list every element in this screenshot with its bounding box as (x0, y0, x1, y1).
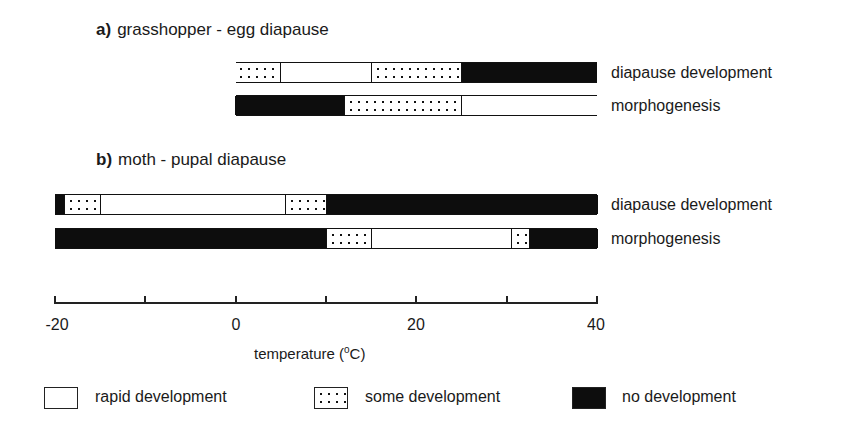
x-axis-tick (325, 296, 327, 304)
tick-label-20: 20 (407, 316, 425, 334)
bar-segment-black (55, 229, 326, 248)
bar-segment-black (235, 96, 343, 115)
bar-moth-morphogenesis (55, 228, 597, 249)
panel-a-title-text: grasshopper - egg diapause (117, 20, 329, 39)
bar-segment-dots (285, 195, 327, 214)
panel-b-title-text: moth - pupal diapause (118, 150, 286, 169)
x-axis-title-unit: C) (350, 345, 366, 362)
panel-b-letter: b) (96, 150, 112, 169)
x-axis-title: temperature (oC) (254, 344, 365, 362)
bar-segment-white (461, 96, 598, 115)
bar-segment-black (326, 195, 598, 214)
x-axis-tick (506, 296, 508, 304)
bar-segment-black (55, 195, 64, 214)
panel-b-title: b)moth - pupal diapause (96, 150, 286, 170)
bar-segment-white (371, 229, 512, 248)
legend-swatch-no-development (572, 387, 606, 409)
row-label-grasshopper-morphogenesis: morphogenesis (611, 97, 720, 115)
legend-label-rapid-development: rapid development (95, 388, 227, 406)
legend-label-no-development: no development (622, 388, 736, 406)
x-axis-tick (54, 296, 56, 304)
tick-label-0: 0 (232, 316, 241, 334)
x-axis-tick (596, 296, 598, 304)
bar-segment-white (100, 195, 286, 214)
panel-a-title: a)grasshopper - egg diapause (96, 20, 329, 40)
row-label-moth-diapause-development: diapause development (611, 196, 772, 214)
bar-segment-dots (371, 63, 462, 82)
x-axis-tick (415, 296, 417, 304)
x-axis-tick (235, 296, 237, 304)
bar-segment-black (529, 229, 598, 248)
legend-swatch-some-development (314, 387, 348, 409)
bar-moth-diapause-development (55, 194, 597, 215)
bar-segment-dots (235, 63, 280, 82)
tick-label-40: 40 (587, 316, 605, 334)
bar-segment-black (461, 63, 598, 82)
bar-grasshopper-diapause-development (236, 62, 597, 83)
bar-segment-white (280, 63, 371, 82)
bar-segment-dots (326, 229, 372, 248)
panel-a-letter: a) (96, 20, 111, 39)
x-axis-title-text: temperature ( (254, 345, 344, 362)
bar-segment-dots (511, 229, 530, 248)
x-axis-tick (144, 296, 146, 304)
bar-grasshopper-morphogenesis (236, 95, 597, 116)
legend-swatch-rapid-development (44, 387, 78, 409)
row-label-moth-morphogenesis: morphogenesis (611, 230, 720, 248)
legend-label-some-development: some development (365, 388, 500, 406)
tick-label-minus-20: -20 (45, 316, 68, 334)
bar-segment-dots (64, 195, 101, 214)
bar-segment-dots (344, 96, 462, 115)
row-label-grasshopper-diapause-development: diapause development (611, 64, 772, 82)
